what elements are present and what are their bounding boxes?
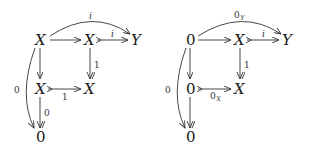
label-curve-top: i bbox=[89, 11, 92, 21]
label-right-vertical: 1 bbox=[94, 60, 100, 70]
label-lower-vertical: 0 bbox=[44, 108, 50, 118]
node-top-right: Y bbox=[131, 31, 143, 49]
label-curve-top: 0Y bbox=[234, 10, 245, 22]
node-bottom: 0 bbox=[186, 128, 196, 146]
commutative-diagrams: X X Y X X 0 i i 1 1 0 0 0 X Y 0 X 0 bbox=[0, 0, 314, 152]
node-mid-mid: X bbox=[233, 80, 246, 98]
node-top-mid: X bbox=[233, 31, 246, 49]
label-right-vertical: 1 bbox=[244, 60, 250, 70]
arrow-curve-left bbox=[177, 48, 186, 128]
node-top-left: X bbox=[34, 31, 47, 49]
right-diagram: 0 X Y 0 X 0 0Y i 1 0X 0 bbox=[165, 10, 294, 146]
node-top-mid: X bbox=[83, 31, 96, 49]
node-top-right: Y bbox=[282, 31, 294, 49]
node-top-left: 0 bbox=[186, 31, 196, 49]
label-mid-horizontal: 1 bbox=[62, 92, 68, 102]
left-diagram: X X Y X X 0 i i 1 1 0 0 bbox=[14, 11, 143, 146]
node-bottom: 0 bbox=[36, 128, 46, 146]
node-mid-mid: X bbox=[83, 80, 96, 98]
arrow-curve-left bbox=[26, 48, 35, 128]
label-top-mid-to-right: i bbox=[111, 29, 114, 39]
node-mid-left: X bbox=[34, 80, 47, 98]
label-curve-left: 0 bbox=[14, 85, 20, 95]
label-curve-left: 0 bbox=[165, 85, 171, 95]
label-top-mid-to-right: i bbox=[262, 29, 265, 39]
label-mid-horizontal: 0X bbox=[210, 91, 221, 103]
node-mid-left: 0 bbox=[186, 80, 196, 98]
